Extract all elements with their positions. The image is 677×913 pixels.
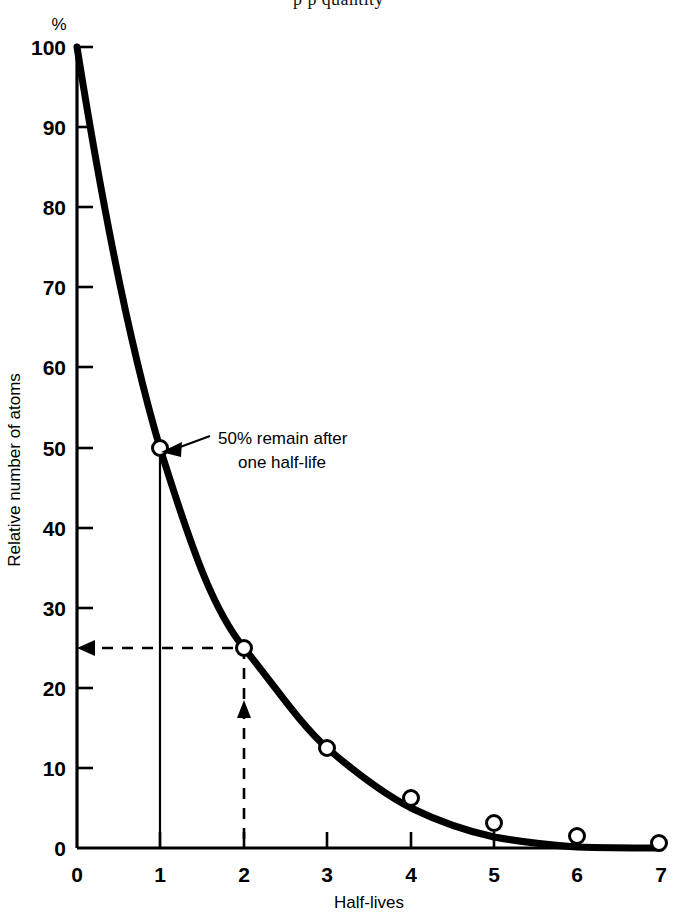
y-tick-label: 20 xyxy=(43,677,66,700)
x-tick-label: 6 xyxy=(571,863,583,886)
data-point-marker xyxy=(570,829,585,844)
x-tick-label: 0 xyxy=(71,863,83,886)
callout-line-2: one half-life xyxy=(238,453,326,472)
y-tick-label: 50 xyxy=(43,437,66,460)
quarter-up-arrowhead xyxy=(237,700,251,718)
quarter-left-arrowhead xyxy=(77,640,95,656)
x-tick-label: 7 xyxy=(655,863,667,886)
data-point-marker xyxy=(237,641,252,656)
data-point-markers xyxy=(153,441,667,851)
y-tick-label: 30 xyxy=(43,597,66,620)
x-tick-label: 5 xyxy=(488,863,500,886)
decay-curve-figure: 100 90 80 70 60 50 40 30 20 10 0 % 0 1 xyxy=(0,0,677,913)
y-axis-tick-labels: 100 90 80 70 60 50 40 30 20 10 0 xyxy=(31,36,66,860)
x-tick-label: 4 xyxy=(405,863,417,886)
data-point-marker xyxy=(652,836,667,851)
y-tick-label: 100 xyxy=(31,36,66,59)
x-tick-label: 3 xyxy=(321,863,333,886)
x-axis-title: Half-lives xyxy=(334,893,404,912)
data-point-marker xyxy=(320,741,335,756)
y-tick-label: 80 xyxy=(43,196,66,219)
data-point-marker xyxy=(404,791,419,806)
callout-line-1: 50% remain after xyxy=(218,429,348,448)
y-tick-label: 90 xyxy=(43,116,66,139)
y-tick-label: 60 xyxy=(43,356,66,379)
y-axis-unit-label: % xyxy=(51,15,66,34)
data-point-marker xyxy=(487,816,502,831)
x-tick-label: 2 xyxy=(238,863,250,886)
x-axis-tick-labels: 0 1 2 3 4 5 6 7 xyxy=(71,863,667,886)
y-axis-title: Relative number of atoms xyxy=(5,373,24,567)
y-axis-ticks xyxy=(77,47,93,768)
y-tick-label: 70 xyxy=(43,276,66,299)
y-tick-label: 40 xyxy=(43,517,66,540)
data-point-marker xyxy=(153,441,168,456)
y-tick-label: 10 xyxy=(43,757,66,780)
y-tick-label: 0 xyxy=(54,837,66,860)
chart-canvas: 100 90 80 70 60 50 40 30 20 10 0 % 0 1 xyxy=(0,0,677,913)
half-life-callout: 50% remain after one half-life xyxy=(161,429,348,472)
x-tick-label: 1 xyxy=(154,863,166,886)
